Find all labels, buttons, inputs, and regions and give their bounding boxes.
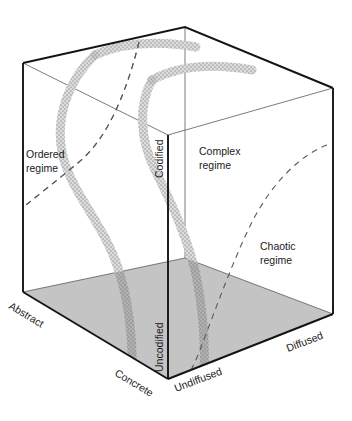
ordered-regime-label-line1: Ordered: [26, 148, 65, 160]
chaotic-regime-label-line1: Chaotic: [260, 240, 296, 252]
ordered-regime-label-line2: regime: [26, 162, 58, 174]
complex-regime-label-line2: regime: [199, 159, 231, 171]
chaotic-regime-label-line2: regime: [260, 254, 292, 266]
cube-diagram: Ordered regime Complex regime Chaotic re…: [0, 0, 352, 421]
figure-root: Ordered regime Complex regime Chaotic re…: [0, 0, 352, 421]
axis-label-uncodified: Uncodified: [153, 322, 165, 372]
axis-label-codified: Codified: [153, 139, 165, 178]
complex-regime-label-line1: Complex: [199, 145, 241, 157]
